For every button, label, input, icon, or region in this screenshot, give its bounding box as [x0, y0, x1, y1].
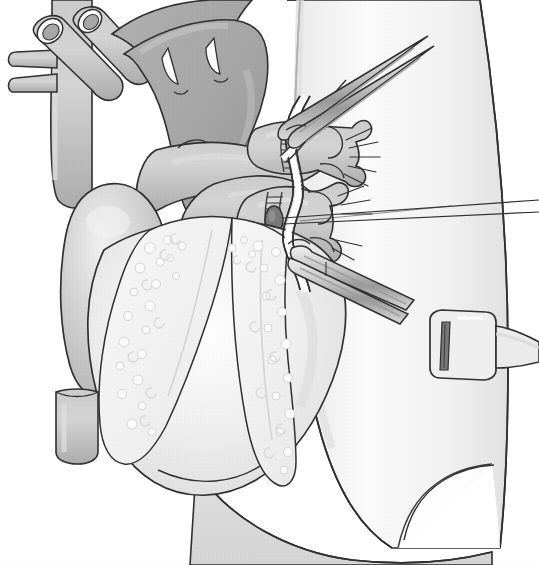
surgical-illustration — [0, 0, 539, 565]
texture-overlay — [0, 0, 539, 565]
figure-root: Thoracoscopic lung resection - hilar dis… — [0, 0, 539, 565]
